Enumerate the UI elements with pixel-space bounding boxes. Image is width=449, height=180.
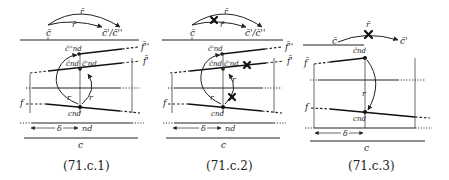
f-dash-right [262,111,282,113]
r-arrow [367,60,376,110]
caption: (71.c.3) [348,159,395,173]
label-nd: nd [225,124,235,133]
label-nd: nd [82,124,92,133]
label-c: c [78,140,83,150]
panel-71-c-1: c̄ r̄ r̄ c̄'/c̄'' c̄''nd f̄'' f̄' c̄nd c… [19,7,149,173]
label-c: c [221,140,226,150]
label-c-nd: cnd [353,115,366,123]
label-target: c̄'/c̄'' [245,28,266,38]
label-target: c̄' [400,36,408,46]
f-dash-right [120,111,140,113]
label-delta: δ [57,124,62,133]
f-dash-right [415,117,430,118]
label-delta: δ [201,124,206,133]
label-r-right: r [89,93,94,102]
label-r-bar-top: r̄ [366,20,371,29]
f-bar-line [330,58,365,62]
diagram-canvas: c̄ r̄ r̄ c̄'/c̄'' c̄''nd f̄'' f̄' c̄nd c… [0,0,449,180]
label-f-bar: f̄ [303,57,310,68]
label-r-bar-top: r̄ [224,7,229,16]
label-f: f [19,98,25,108]
label-delta: δ [343,129,348,138]
label-c-bar: c̄ [46,28,51,38]
point-c-nd [221,105,225,109]
label-f-p: f̄' [286,55,293,66]
label-f: f [162,98,168,108]
f-line [330,109,415,117]
label-r-bar-mid: r̄ [72,20,77,29]
f-prime-dash-left [170,71,190,73]
caption: (71.c.2) [206,159,253,173]
f-bar-dash [314,62,330,64]
label-c: c [364,143,369,153]
f-line [188,104,262,111]
label-c-bar: c̄ [190,28,195,38]
label-c-nd: cnd [211,110,224,118]
label-c-nd-p: c̄'nd [224,60,239,68]
panel-71-c-3: c̄ r̄ c̄' c̄nd f̄ r f cnd δ c (71.c.3) [303,20,432,173]
label-target: c̄'/c̄'' [102,28,123,38]
label-f-pp: f̄'' [140,41,149,52]
label-c-nd-pp: c̄'nd [208,45,223,53]
label-r: r [362,89,367,98]
label-f-pp: f̄'' [284,41,293,52]
label-c-nd-pp: c̄''nd [65,45,82,53]
label-r-bar-mid: r̄ [220,20,225,29]
label-c-nd-bar: c̄nd [209,60,222,68]
point-c-nd [78,105,82,109]
f-double-prime-dash [265,47,282,49]
outer-arc-arrow [48,14,120,27]
f-double-prime-dash [122,47,138,49]
label-f: f [304,102,310,112]
f-prime-dash-right [266,61,284,63]
f-prime-dash-left [30,71,48,73]
label-c-nd-p: c̄'nd [82,60,97,68]
inner-arc-arrow [192,22,246,27]
label-c-nd-bar: c̄nd [353,47,366,55]
panel-71-c-2: c̄ r̄ r̄ c̄'/c̄'' c̄'nd f̄'' f̄' c̄nd c̄… [162,7,293,173]
point-c-nd [363,110,367,114]
label-r-bar-top: r̄ [80,7,85,16]
label-r-right: r [232,75,237,84]
f-double-prime-line [79,49,122,54]
f-double-prime-line [222,49,265,54]
blocked-x-icon [365,31,372,38]
f-prime-dash-right [122,61,140,63]
caption: (71.c.1) [63,159,110,173]
f-line [46,104,120,111]
label-f-p: f̄' [142,55,149,66]
label-c-nd-bar: c̄nd [66,60,79,68]
label-c-nd: cnd [68,110,81,118]
